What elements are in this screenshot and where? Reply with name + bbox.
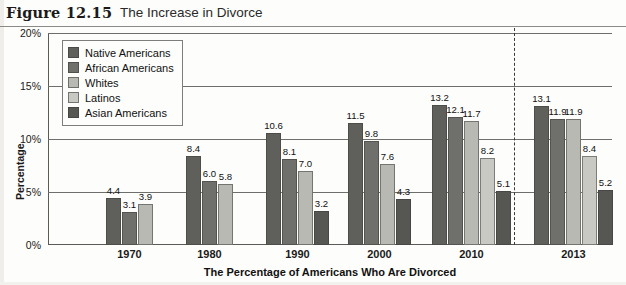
legend-item: Native Americans	[68, 45, 174, 60]
bar	[380, 164, 395, 245]
bar-value-label: 3.2	[309, 198, 334, 209]
figure-header: Figure 12.15 The Increase in Divorce	[0, 0, 626, 27]
y-tick-label: 5%	[26, 186, 41, 198]
bar-value-label: 11.9	[561, 106, 586, 117]
x-tick-label: 1970	[104, 248, 156, 260]
legend-swatch	[68, 77, 79, 88]
bar	[202, 181, 217, 245]
bar	[480, 158, 495, 245]
period-divider-line	[514, 28, 515, 245]
bar-value-label: 8.4	[577, 143, 602, 154]
bar	[218, 184, 233, 245]
bar	[598, 190, 613, 245]
bar-value-label: 13.1	[529, 93, 554, 104]
bar	[550, 119, 565, 245]
bar-value-label: 7.0	[293, 158, 318, 169]
y-axis-label: Percentage	[14, 143, 26, 200]
bar-value-label: 8.4	[181, 143, 206, 154]
y-tick-label: 15%	[20, 80, 41, 92]
legend-swatch	[68, 62, 79, 73]
y-tick-label: 0%	[26, 239, 41, 251]
gridline	[48, 33, 612, 34]
legend-label: Latinos	[85, 92, 120, 104]
x-tick-label: 1980	[184, 248, 236, 260]
legend-label: Native Americans	[85, 47, 171, 59]
legend-swatch	[68, 47, 79, 58]
bar-value-label: 4.4	[101, 185, 126, 196]
legend-label: Asian Americans	[85, 107, 167, 119]
figure-title: The Increase in Divorce	[120, 5, 263, 20]
bar-value-label: 10.6	[261, 120, 286, 131]
bar	[396, 199, 411, 245]
x-tick-label: 2000	[354, 248, 406, 260]
legend-item: Latinos	[68, 90, 174, 105]
bar-value-label: 4.3	[391, 186, 416, 197]
bar	[348, 123, 363, 245]
bar-value-label: 5.1	[491, 178, 516, 189]
bar	[448, 117, 463, 245]
figure-label: Figure 12.15	[6, 4, 112, 21]
legend: Native AmericansAfrican AmericansWhitesL…	[62, 40, 183, 126]
bar	[464, 121, 479, 245]
bar-value-label: 13.2	[427, 92, 452, 103]
legend-label: Whites	[85, 77, 119, 89]
x-tick-label: 2010	[446, 248, 498, 260]
x-tick-label: 2013	[548, 248, 600, 260]
bar	[566, 119, 581, 245]
bar-value-label: 3.9	[133, 191, 158, 202]
bar-value-label: 11.7	[459, 108, 484, 119]
bar	[282, 159, 297, 245]
bar-value-label: 5.8	[213, 171, 238, 182]
bar-value-label: 9.8	[359, 128, 384, 139]
bar	[122, 212, 137, 245]
bar	[432, 105, 447, 245]
x-axis-label: The Percentage of Americans Who Are Divo…	[48, 266, 612, 278]
bar	[496, 191, 511, 245]
figure-page: Figure 12.15 The Increase in Divorce 0%5…	[0, 0, 626, 285]
bar-value-label: 11.5	[343, 110, 368, 121]
y-axis-ticks: 0%5%10%15%20%	[0, 33, 45, 245]
bar	[534, 106, 549, 245]
bar-value-label: 8.2	[475, 145, 500, 156]
legend-item: Whites	[68, 75, 174, 90]
legend-swatch	[68, 107, 79, 118]
x-tick-label: 1990	[272, 248, 324, 260]
bar-value-label: 7.6	[375, 151, 400, 162]
bar	[582, 156, 597, 245]
bar-value-label: 8.1	[277, 146, 302, 157]
bar-value-label: 5.2	[593, 177, 618, 188]
bar	[314, 211, 329, 245]
y-tick-label: 20%	[20, 27, 41, 39]
gridline	[48, 139, 612, 140]
legend-swatch	[68, 92, 79, 103]
bar	[138, 204, 153, 245]
legend-label: African Americans	[85, 62, 174, 74]
legend-item: Asian Americans	[68, 105, 174, 120]
legend-item: African Americans	[68, 60, 174, 75]
